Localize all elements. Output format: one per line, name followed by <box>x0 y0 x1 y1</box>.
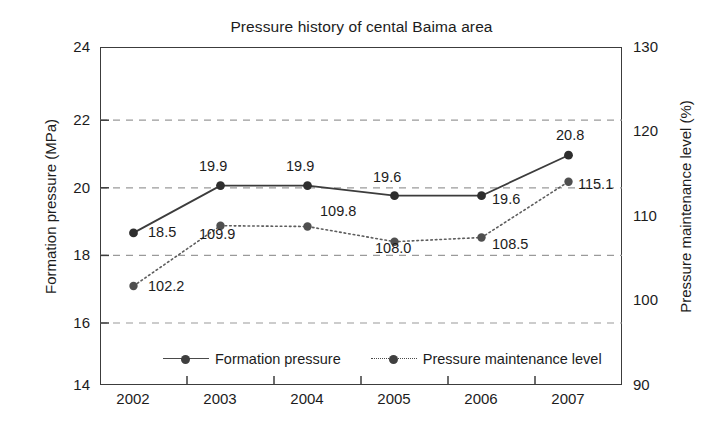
y-axis-left-tick: 24 <box>44 38 90 55</box>
chart-legend: Formation pressure Pressure maintenance … <box>163 351 602 367</box>
legend-item-formation-pressure[interactable]: Formation pressure <box>163 351 341 367</box>
data-point <box>129 282 137 290</box>
data-point <box>216 181 225 190</box>
data-label-maintenance-2005: 108.0 <box>375 240 411 256</box>
data-point <box>564 178 572 186</box>
x-axis-tick-2002: 2002 <box>98 390 168 407</box>
data-point <box>564 151 573 160</box>
y-axis-right-title: Pressure maintenance level (%) <box>677 77 694 337</box>
y-axis-right-tick: 110 <box>633 207 679 224</box>
y-axis-left-tick: 22 <box>44 111 90 128</box>
data-label-maintenance-2007: 115.1 <box>578 176 613 192</box>
y-axis-right-tick: 130 <box>633 38 679 55</box>
data-label-maintenance-2006: 108.5 <box>492 236 528 252</box>
data-label-formation-2003: 19.9 <box>199 158 227 174</box>
y-axis-right-tick: 90 <box>633 376 679 393</box>
chart-title: Pressure history of cental Baima area <box>0 18 723 36</box>
data-label-formation-2002: 18.5 <box>148 224 176 240</box>
chart-figure: Pressure history of cental Baima area <box>0 0 723 440</box>
data-label-formation-2004: 19.9 <box>286 158 314 174</box>
legend-label-pressure-maintenance-level: Pressure maintenance level <box>423 351 602 367</box>
chart-plot-svg <box>100 47 622 385</box>
data-point <box>390 191 399 200</box>
x-axis-tick-2005: 2005 <box>359 390 429 407</box>
data-label-formation-2006: 19.6 <box>492 191 520 207</box>
y-axis-right-tick: 120 <box>633 122 679 139</box>
x-axis-tick-2006: 2006 <box>446 390 516 407</box>
x-axis-tick-2003: 2003 <box>185 390 255 407</box>
y-axis-left-tick: 14 <box>44 376 90 393</box>
y-axis-left-tick: 20 <box>44 179 90 196</box>
data-label-maintenance-2004: 109.8 <box>320 203 356 219</box>
legend-item-pressure-maintenance-level[interactable]: Pressure maintenance level <box>371 351 602 367</box>
legend-marker-solid-line-icon <box>163 353 209 365</box>
x-axis-ticks <box>187 376 535 385</box>
x-axis-tick-2004: 2004 <box>272 390 342 407</box>
data-point <box>129 229 138 238</box>
data-point <box>477 233 485 241</box>
legend-label-formation-pressure: Formation pressure <box>215 351 341 367</box>
x-axis-tick-2007: 2007 <box>533 390 603 407</box>
data-point <box>303 181 312 190</box>
data-label-maintenance-2002: 102.2 <box>148 278 184 294</box>
y-axis-right-tick: 100 <box>633 291 679 308</box>
data-label-formation-2007: 20.8 <box>556 127 584 143</box>
data-point <box>303 222 311 230</box>
legend-marker-dotted-line-icon <box>371 353 417 365</box>
y-axis-left-tick: 16 <box>44 314 90 331</box>
y-axis-left-tick: 18 <box>44 246 90 263</box>
data-label-maintenance-2003: 109.9 <box>199 226 235 242</box>
data-label-formation-2005: 19.6 <box>373 169 401 185</box>
y-axis-left-ticks <box>100 120 109 323</box>
data-point <box>477 191 486 200</box>
